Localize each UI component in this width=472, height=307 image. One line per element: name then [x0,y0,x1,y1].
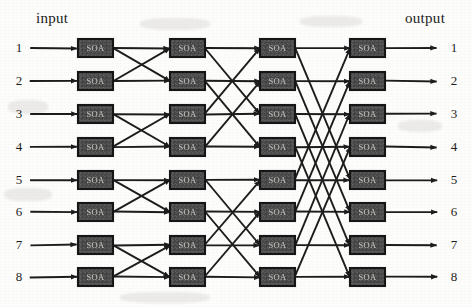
input-port-label-1: 1 [12,40,26,56]
output-port-label-1: 1 [447,40,461,56]
soa-node-stage2-port6[interactable]: SOA [170,203,205,221]
link-stage1-6-to-stage2-6 [113,212,170,213]
soa-node-stage1-port7[interactable]: SOA [78,236,113,254]
soa-node-label: SOA [358,109,377,119]
soa-node-label: SOA [178,142,197,152]
soa-node-label: SOA [358,240,377,250]
soa-node-label: SOA [358,142,377,152]
soa-node-stage4-port8[interactable]: SOA [350,268,385,286]
output-port-label-3: 3 [447,106,461,122]
input-link-8 [30,277,77,278]
soa-node-stage1-port2[interactable]: SOA [78,72,113,90]
soa-node-label: SOA [268,76,287,86]
soa-node-stage1-port5[interactable]: SOA [78,171,113,189]
output-link-2 [385,81,437,82]
soa-node-label: SOA [178,109,197,119]
soa-node-stage3-port2[interactable]: SOA [260,72,295,90]
input-port-label-7: 7 [12,237,26,253]
soa-node-stage4-port4[interactable]: SOA [350,138,385,156]
soa-node-stage3-port8[interactable]: SOA [260,268,295,286]
soa-node-stage3-port6[interactable]: SOA [260,203,295,221]
soa-node-label: SOA [268,142,287,152]
output-port-label-5: 5 [447,172,461,188]
soa-node-label: SOA [86,240,105,250]
soa-node-stage2-port7[interactable]: SOA [170,236,205,254]
soa-node-label: SOA [86,109,105,119]
soa-node-label: SOA [268,43,287,53]
soa-node-stage3-port3[interactable]: SOA [260,105,295,123]
soa-node-stage4-port1[interactable]: SOA [350,39,385,57]
soa-node-label: SOA [358,175,377,185]
soa-node-stage3-port1[interactable]: SOA [260,39,295,57]
link-stage1-7-to-stage2-7 [113,245,170,246]
soa-node-label: SOA [268,272,287,282]
output-port-label-4: 4 [447,139,461,155]
output-port-label-6: 6 [447,204,461,220]
soa-node-stage2-port1[interactable]: SOA [170,39,205,57]
soa-node-label: SOA [268,240,287,250]
soa-node-stage3-port7[interactable]: SOA [260,236,295,254]
link-stage2-8-to-stage3-8 [205,277,260,278]
soa-node-label: SOA [86,207,105,217]
link-stage1-8-to-stage2-8 [114,277,170,278]
soa-node-stage1-port3[interactable]: SOA [78,105,113,123]
soa-node-stage3-port4[interactable]: SOA [260,138,295,156]
soa-node-label: SOA [268,109,287,119]
soa-node-stage4-port7[interactable]: SOA [350,236,385,254]
soa-node-stage2-port5[interactable]: SOA [170,171,205,189]
soa-node-stage4-port2[interactable]: SOA [350,72,385,90]
input-link-1 [30,48,77,49]
soa-node-label: SOA [358,76,377,86]
soa-node-label: SOA [86,175,105,185]
input-port-label-5: 5 [12,172,26,188]
soa-node-label: SOA [358,272,377,282]
input-port-label-8: 8 [12,269,26,285]
soa-node-label: SOA [178,207,197,217]
soa-node-stage1-port1[interactable]: SOA [78,39,113,57]
soa-node-stage2-port4[interactable]: SOA [170,138,205,156]
soa-node-stage1-port6[interactable]: SOA [78,203,113,221]
network-diagram-canvas: SOASOASOASOASOASOASOASOASOASOASOASOASOAS… [0,0,472,307]
soa-node-label: SOA [86,43,105,53]
output-port-label-8: 8 [447,269,461,285]
soa-node-label: SOA [358,207,377,217]
soa-node-stage2-port3[interactable]: SOA [170,105,205,123]
output-link-4 [385,147,437,148]
soa-node-label: SOA [178,43,197,53]
soa-node-label: SOA [178,76,197,86]
soa-node-label: SOA [86,76,105,86]
input-port-label-3: 3 [12,106,26,122]
soa-node-stage2-port8[interactable]: SOA [170,268,205,286]
soa-node-label: SOA [268,207,287,217]
soa-node-label: SOA [268,175,287,185]
link-stage1-4-to-stage2-4 [113,147,170,148]
soa-node-stage1-port4[interactable]: SOA [78,138,113,156]
soa-node-label: SOA [178,240,197,250]
soa-node-label: SOA [358,43,377,53]
soa-node-label: SOA [178,272,197,282]
soa-node-stage4-port6[interactable]: SOA [350,203,385,221]
output-port-label-2: 2 [447,73,461,89]
soa-node-label: SOA [86,272,105,282]
output-port-label-7: 7 [447,237,461,253]
soa-node-label: SOA [178,175,197,185]
soa-node-stage2-port2[interactable]: SOA [170,72,205,90]
input-port-label-4: 4 [12,139,26,155]
soa-node-label: SOA [86,142,105,152]
soa-node-stage3-port5[interactable]: SOA [260,171,295,189]
soa-node-stage1-port8[interactable]: SOA [78,268,113,286]
input-port-label-2: 2 [12,73,26,89]
soa-node-stage4-port3[interactable]: SOA [350,105,385,123]
input-port-label-6: 6 [12,204,26,220]
soa-node-stage4-port5[interactable]: SOA [350,171,385,189]
input-link-7 [30,245,76,246]
